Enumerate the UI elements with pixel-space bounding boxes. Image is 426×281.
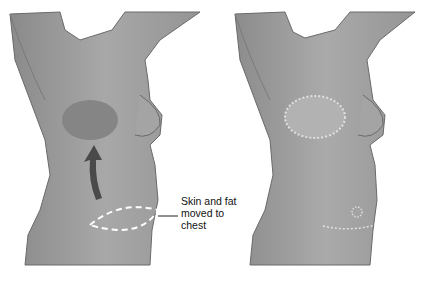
torso-before-figure [0, 0, 215, 281]
torso-after-figure [215, 0, 426, 281]
chest-recipient-area [62, 100, 118, 140]
sutured-flap [285, 96, 345, 138]
after-illustration [215, 0, 426, 281]
before-illustration: Skin and fat moved to chest [0, 0, 215, 281]
